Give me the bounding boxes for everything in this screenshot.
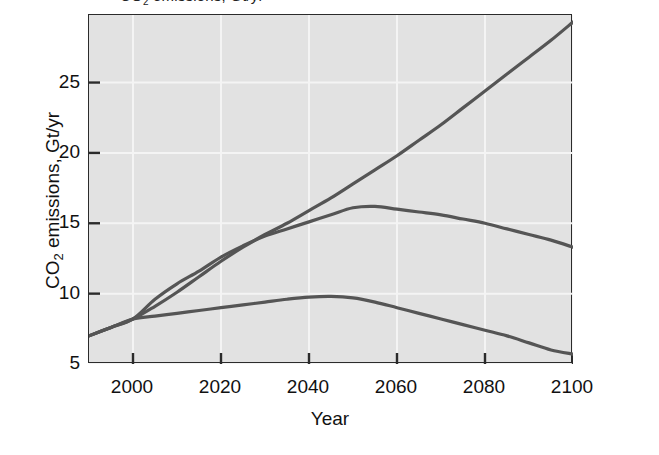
x-tick-label: 2000 [92,377,172,396]
x-tick-label: 2060 [356,377,436,396]
x-axis-title: Year [88,408,572,430]
x-tick-label: 2020 [180,377,260,396]
x-tick-label: 2100 [532,377,612,396]
x-tick-label: 2040 [268,377,348,396]
figure-root: CO2 emissions, Gt/yr 510152025 200020202… [0,0,659,455]
x-tick-label: 2080 [444,377,524,396]
y-axis-title: CO2 emissions, Gt/yr [42,50,67,350]
x-axis-tick-labels: 200020202040206020802100 [0,0,659,455]
